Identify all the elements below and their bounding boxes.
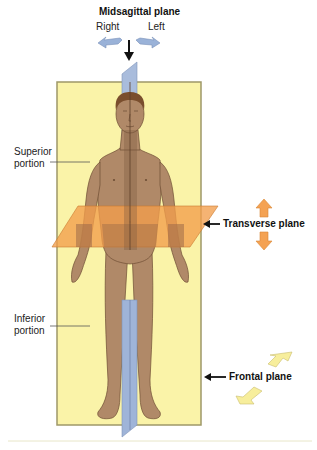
frontal-plane-label: Frontal plane xyxy=(229,371,292,383)
left-label: Left xyxy=(148,21,165,33)
superior-label-line2: portion xyxy=(14,158,45,170)
up-arrow-icon xyxy=(256,199,272,217)
right-arrow-icon xyxy=(98,37,122,48)
forward-arrow-icon xyxy=(268,352,292,367)
left-arrow-icon xyxy=(136,37,160,48)
inferior-label-line2: portion xyxy=(14,325,45,337)
midsagittal-pointer-arrow xyxy=(124,52,134,61)
inferior-label-line1: Inferior xyxy=(14,313,45,325)
transverse-plane-label: Transverse plane xyxy=(223,218,305,230)
down-arrow-icon xyxy=(256,232,272,250)
midsagittal-plane-lower xyxy=(122,300,137,437)
midsagittal-plane-label: Midsagittal plane xyxy=(99,6,180,18)
frontal-pointer-arrow xyxy=(204,373,211,381)
midsagittal-plane-through-body xyxy=(124,130,137,250)
right-label: Right xyxy=(96,21,119,33)
superior-label-line1: Superior xyxy=(14,146,52,158)
backward-arrow-icon xyxy=(236,387,262,404)
